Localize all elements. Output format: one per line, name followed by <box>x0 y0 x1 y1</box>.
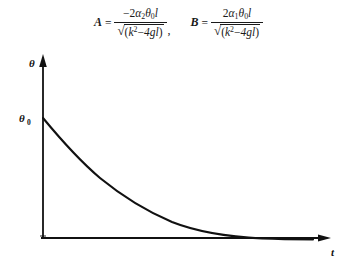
theta-zero-label-subscript: 0 <box>27 118 31 127</box>
equation-A-numerator: −2α2θ0l <box>120 7 161 22</box>
theta-decay-curve <box>43 118 313 240</box>
equation-B-lhs: B <box>191 15 202 30</box>
decay-plot: θ θ 0 t <box>0 45 358 265</box>
equation-A-denominator-term: 4gl <box>144 26 159 38</box>
equation-A-radicand: (k2−4gl) <box>124 24 164 39</box>
equation-A-denominator: √(k2−4gl) <box>114 23 166 39</box>
theta-zero-label: θ <box>19 112 25 124</box>
equation-A-fraction: −2α2θ0l √(k2−4gl) <box>114 7 166 39</box>
equation-A-sqrt-icon: √ <box>117 24 124 37</box>
equation-B-denominator-close-paren: ) <box>255 26 259 38</box>
x-axis-label: t <box>331 246 335 258</box>
equation-A-relation: = <box>105 17 115 29</box>
equation-B-numerator-l: l <box>248 7 251 19</box>
equation-B-fraction: 2α1θ0l √(k2−4gl) <box>211 7 263 39</box>
equation-B-denominator: √(k2−4gl) <box>211 23 263 39</box>
x-axis-arrowhead-icon <box>318 234 331 241</box>
equation-B: B = 2α1θ0l √(k2−4gl) <box>191 7 265 39</box>
equation-A-lhs: A <box>94 15 105 30</box>
plot-svg: θ θ 0 t <box>0 45 358 265</box>
equation-block: A = −2α2θ0l √(k2−4gl) , B = 2α1θ0l √(k2−… <box>0 2 358 44</box>
y-axis-label: θ <box>29 57 35 69</box>
y-axis-arrowhead-icon <box>39 54 47 67</box>
equation-A-trailing-comma: , <box>167 23 171 39</box>
equation-A: A = −2α2θ0l √(k2−4gl) , <box>94 7 171 39</box>
equation-B-relation: = <box>202 17 212 29</box>
equation-B-numerator: 2α1θ0l <box>220 7 254 22</box>
equation-B-radicand: (k2−4gl) <box>220 24 260 39</box>
equation-A-denominator-close-paren: ) <box>159 26 163 38</box>
equation-A-numerator-l: l <box>155 7 158 19</box>
equation-B-denominator-term: 4gl <box>241 26 256 38</box>
equation-B-sqrt-icon: √ <box>214 24 221 37</box>
equation-B-trailing-punctuation <box>263 38 264 39</box>
